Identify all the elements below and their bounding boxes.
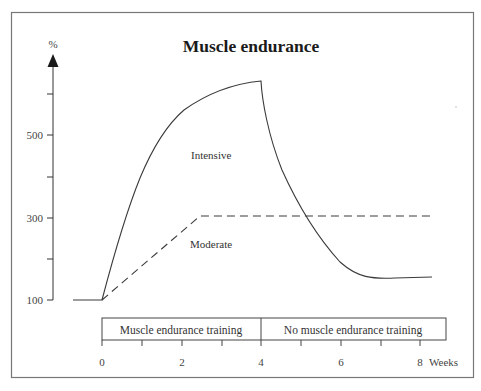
intensive-curve [73,81,432,300]
phase-band: Muscle endurance training No muscle endu… [102,318,446,340]
x-axis-unit: Weeks [429,356,458,368]
x-tick-2: 2 [179,356,185,368]
x-tick-8: 8 [417,356,423,368]
y-axis-arrow-icon [48,54,59,67]
phase-label-training: Muscle endurance training [120,324,243,337]
scan-speck [455,106,457,108]
y-tick-300: 300 [27,212,44,224]
moderate-label: Moderate [190,238,232,250]
x-tick-4: 4 [258,356,264,368]
x-axis [102,340,420,346]
chart-figure: Muscle endurance % 500 300 100 Intensive… [0,0,481,391]
x-tick-0: 0 [99,356,105,368]
moderate-curve [102,216,432,300]
y-axis-unit: % [48,38,57,50]
intensive-label: Intensive [191,149,231,161]
x-tick-6: 6 [338,356,344,368]
phase-label-no-training: No muscle endurance training [284,324,423,337]
y-tick-100: 100 [27,294,44,306]
y-tick-500: 500 [27,129,44,141]
chart-title: Muscle endurance [183,36,320,56]
y-axis: % 500 300 100 [27,38,59,306]
